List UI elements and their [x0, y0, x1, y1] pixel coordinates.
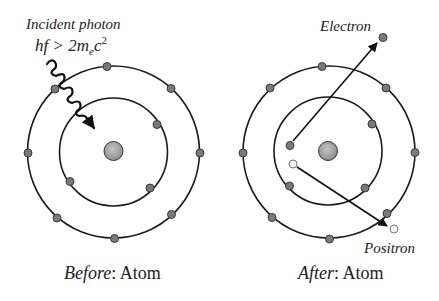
electron — [53, 214, 61, 222]
electron — [66, 178, 74, 186]
electron — [382, 84, 390, 92]
photon-label: Incident photon — [25, 16, 121, 32]
electron — [286, 142, 294, 150]
electron — [411, 149, 419, 157]
electron — [146, 184, 154, 192]
electron — [318, 63, 326, 71]
electron — [24, 149, 32, 157]
electron — [111, 235, 119, 243]
electron — [196, 149, 204, 157]
electron — [383, 210, 391, 218]
pair-production-diagram: Incident photon hf > 2mec2 Before: Atom — [0, 0, 439, 301]
nucleus — [319, 142, 338, 161]
before-atom: Incident photon hf > 2mec2 Before: Atom — [24, 16, 204, 283]
positron-label: Positron — [363, 240, 415, 256]
after-caption: After: Atom — [297, 263, 384, 283]
ejected-electron — [379, 34, 387, 42]
after-atom: Electron Positron After: Atom — [239, 18, 419, 283]
positron — [390, 225, 398, 233]
electron — [167, 85, 175, 93]
nucleus — [104, 142, 123, 161]
electron — [268, 214, 276, 222]
electron-label: Electron — [319, 18, 371, 34]
positron-trajectory-arrow — [297, 167, 387, 226]
electron — [368, 120, 376, 128]
electron — [286, 182, 294, 190]
electron — [51, 85, 59, 93]
before-caption: Before: Atom — [64, 263, 161, 283]
electron-trajectory-arrow — [293, 43, 377, 141]
photon-condition: hf > 2mec2 — [35, 34, 107, 57]
electron — [266, 84, 274, 92]
electron — [168, 211, 176, 219]
electron — [361, 184, 369, 192]
positron-origin — [289, 160, 297, 168]
electron — [103, 63, 111, 71]
electron — [153, 121, 161, 129]
electron — [326, 235, 334, 243]
electron — [239, 149, 247, 157]
